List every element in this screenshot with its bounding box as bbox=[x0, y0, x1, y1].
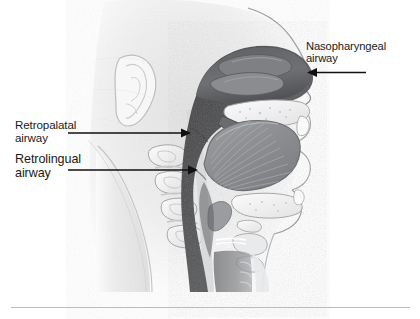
bottom-divider-rule bbox=[11, 307, 410, 308]
figure-root: Nasopharyngeal airway Retropalatal airwa… bbox=[0, 0, 420, 319]
label-retropalatal-airway: Retropalatal airway bbox=[15, 119, 76, 144]
label-nasopharyngeal-airway: Nasopharyngeal airway bbox=[306, 40, 386, 64]
label-retrolingual-airway: Retrolingual airway bbox=[15, 153, 81, 180]
arrow-nasopharyngeal bbox=[307, 68, 366, 77]
